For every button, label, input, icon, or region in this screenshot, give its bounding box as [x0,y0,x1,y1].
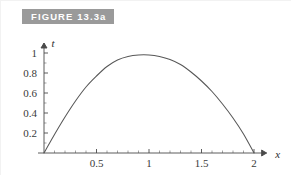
x-tick-label: 1 [146,157,152,169]
y-tick-label: 1 [32,47,38,59]
y-tick-label: 0.2 [23,127,37,139]
y-tick-label: 0.4 [23,107,37,119]
data-curve [44,55,254,153]
x-tick-label: 2 [251,157,257,169]
x-axis-arrowhead [262,150,267,156]
y-tick-label: 0.6 [23,87,37,99]
x-axis-tick-labels: 0.511.52 [90,157,257,169]
x-axis-label: x [274,148,280,160]
plot-area: 0.511.52 0.20.40.60.81 x t [0,22,291,175]
x-tick-label: 0.5 [90,157,104,169]
plot-svg: 0.511.52 0.20.40.60.81 x t [0,22,291,175]
y-tick-label: 0.8 [23,67,37,79]
figure-container: FIGURE 13.3a 0.511.52 0.20.40.60.81 x t [0,0,291,175]
x-axis-major-ticks [97,149,255,153]
y-axis-label: t [51,37,55,49]
y-axis-major-ticks [44,53,48,133]
y-axis-tick-labels: 0.20.40.60.81 [23,47,37,139]
y-axis-arrowhead [41,43,47,48]
x-tick-label: 1.5 [195,157,209,169]
